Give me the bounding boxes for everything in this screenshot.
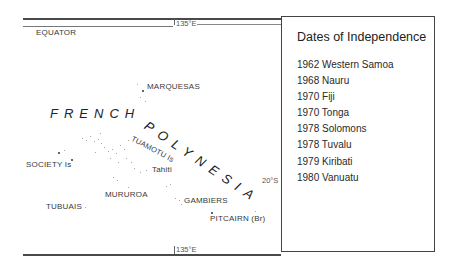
place-label-marquesas: MARQUESAS — [147, 82, 200, 91]
meridian-top-guide — [197, 24, 281, 25]
equator-label: EQUATOR — [36, 28, 76, 37]
legend-entry: 1970 Fiji — [297, 89, 394, 105]
meridian-label-bottom: 135°E — [176, 245, 197, 254]
legend-entry: 1980 Vanuatu — [297, 170, 394, 186]
legend-entry: 1968 Nauru — [297, 73, 394, 89]
map-bottom-border — [23, 254, 281, 256]
legend-entry: 1979 Kiribati — [297, 154, 394, 170]
meridian-label-top: 135°E — [176, 19, 197, 28]
place-label-mururoa: MURUROA — [105, 190, 148, 199]
meridian-top-tick — [174, 19, 175, 25]
legend-entry: 1970 Tonga — [297, 105, 394, 121]
map-top-border — [23, 18, 281, 20]
meridian-bottom-tick — [174, 246, 175, 254]
independence-legend: Dates of Independence 1962 Western Samoa… — [281, 16, 435, 252]
legend-list: 1962 Western Samoa 1968 Nauru 1970 Fiji … — [297, 57, 394, 186]
latitude-label: 20°S — [262, 176, 278, 185]
legend-title: Dates of Independence — [297, 30, 426, 44]
equator-line — [23, 26, 173, 27]
legend-entry: 1978 Solomons — [297, 121, 394, 137]
place-label-society: SOCIETY Is — [26, 160, 71, 169]
legend-entry: 1978 Tuvalu — [297, 137, 394, 153]
place-label-pitcairn: PITCAIRN (Br) — [210, 214, 266, 223]
region-label-polynesia: POLYNESIA — [142, 118, 263, 206]
place-label-tubuais: TUBUAIS — [46, 202, 82, 211]
place-label-tahiti: Tahiti — [152, 165, 172, 174]
legend-entry: 1962 Western Samoa — [297, 57, 394, 73]
place-label-gambiers: GAMBIERS — [184, 196, 228, 205]
region-label-french: FRENCH — [50, 106, 140, 121]
